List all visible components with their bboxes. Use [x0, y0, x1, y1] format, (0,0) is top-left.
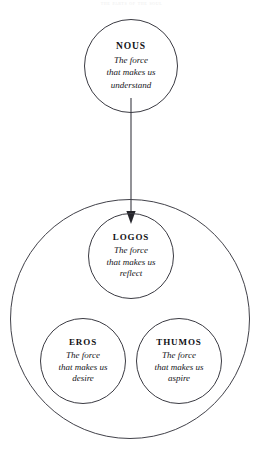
- node-eros-title: EROS: [69, 337, 97, 348]
- node-thumos[interactable]: THUMOS The force that makes us aspire: [136, 318, 222, 404]
- node-nous-title: NOUS: [116, 41, 146, 52]
- node-nous-description: The force that makes us understand: [101, 54, 162, 92]
- node-eros-description: The force that makes us desire: [53, 350, 114, 385]
- diagram-canvas: the parts of the soul NOUS The force tha…: [0, 0, 263, 455]
- node-logos-title: LOGOS: [113, 232, 150, 243]
- node-thumos-title: THUMOS: [156, 337, 201, 348]
- page-header-caption: the parts of the soul: [0, 0, 263, 7]
- node-logos-description: The force that makes us reflect: [101, 245, 162, 280]
- node-thumos-description: The force that makes us aspire: [149, 350, 210, 385]
- node-eros[interactable]: EROS The force that makes us desire: [40, 318, 126, 404]
- node-logos[interactable]: LOGOS The force that makes us reflect: [88, 213, 174, 299]
